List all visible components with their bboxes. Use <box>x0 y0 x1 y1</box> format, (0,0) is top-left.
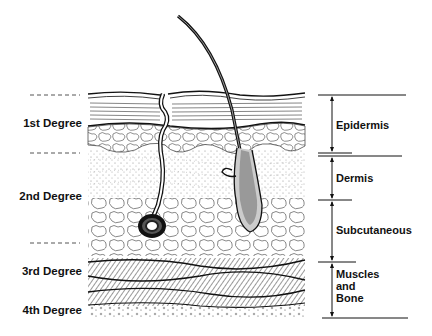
layer-label-epidermis: Epidermis <box>336 119 389 131</box>
layer-label-subcutaneous: Subcutaneous <box>336 224 412 236</box>
muscle-layer <box>88 258 305 307</box>
dermis-layer <box>88 150 305 198</box>
layer-label-muscles-and-bone: Muscles and Bone <box>336 268 379 304</box>
subcutaneous-layer <box>88 198 305 256</box>
skin-burn-diagram: 1st Degree 2nd Degree 3rd Degree 4th Deg… <box>0 0 432 336</box>
degree-label-3rd: 3rd Degree <box>0 265 82 277</box>
degree-label-2nd: 2nd Degree <box>0 190 82 202</box>
layer-label-dermis: Dermis <box>336 172 373 184</box>
epidermis-layer <box>88 91 305 128</box>
degree-label-1st: 1st Degree <box>0 117 82 129</box>
degree-label-4th: 4th Degree <box>0 304 82 316</box>
bone-layer <box>88 306 305 318</box>
